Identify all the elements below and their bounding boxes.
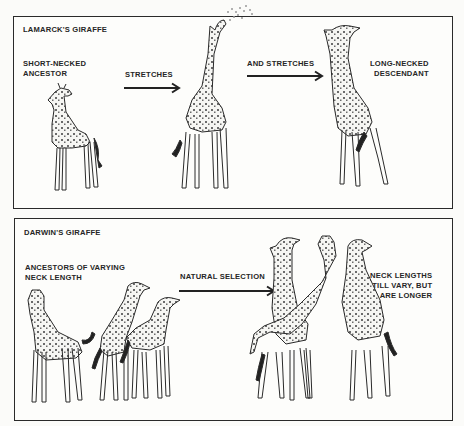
giraffe-short-neck-icon [48,83,102,190]
giraffe-descendant-icon [250,236,336,398]
giraffe-illustrations [0,0,464,426]
giraffe-stretching-icon [172,5,253,188]
giraffe-long-neck-icon [324,26,388,187]
giraffe-ancestor-icon [28,290,95,402]
giraffe-descendant-icon [342,240,397,400]
